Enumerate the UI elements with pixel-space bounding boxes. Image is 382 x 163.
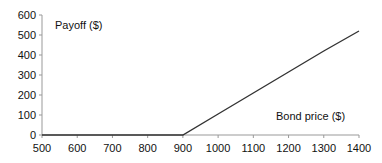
x-tick-label: 600 <box>68 142 86 154</box>
x-tick-label: 1200 <box>276 142 300 154</box>
y-tick-label: 100 <box>18 109 36 121</box>
y-tick-label: 500 <box>18 29 36 41</box>
y-tick-label: 400 <box>18 49 36 61</box>
x-tick-label: 1400 <box>347 142 371 154</box>
y-tick-label: 300 <box>18 69 36 81</box>
x-tick-label: 800 <box>138 142 156 154</box>
x-tick-label: 1100 <box>242 142 266 154</box>
y-tick-label: 200 <box>18 89 36 101</box>
y-axis-title: Payoff ($) <box>55 19 103 31</box>
x-tick-label: 700 <box>103 142 121 154</box>
x-tick-label: 1000 <box>206 142 230 154</box>
y-tick-label: 0 <box>30 129 36 141</box>
x-tick-label: 900 <box>174 142 192 154</box>
x-axis: 50060070080090010001100120013001400 <box>33 135 371 154</box>
payoff-chart: 0100200300400500600 50060070080090010001… <box>0 0 382 163</box>
x-tick-label: 500 <box>33 142 51 154</box>
x-axis-title: Bond price ($) <box>276 110 345 122</box>
y-axis: 0100200300400500600 <box>18 9 42 141</box>
y-tick-label: 600 <box>18 9 36 21</box>
x-tick-label: 1300 <box>312 142 336 154</box>
